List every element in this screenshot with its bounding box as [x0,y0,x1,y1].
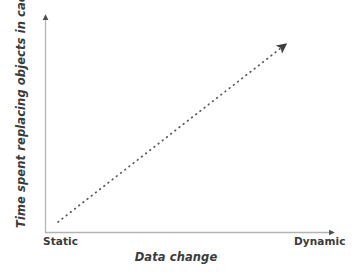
chart-figure: Time spent replacing objects in cache Da… [0,0,352,277]
x-axis-title: Data change [0,252,352,264]
x-axis-tick-label-static: Static [43,236,78,247]
x-axis-tick-label-dynamic: Dynamic [294,236,346,247]
trend-line-dotted [58,48,281,222]
y-axis-title: Time spent replacing objects in cache [16,13,32,228]
